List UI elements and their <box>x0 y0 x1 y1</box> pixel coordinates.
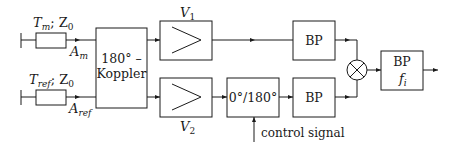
transmission-line-tref <box>36 90 66 105</box>
measurement-input: Tm; Z0 Am <box>21 15 96 61</box>
amplifier-v2: V2 <box>160 78 212 136</box>
svg-text:Tref; Z0: Tref; Z0 <box>29 72 74 89</box>
transmission-line-tm <box>36 33 66 48</box>
amplifier-v1: V1 <box>160 5 212 60</box>
output-bandpass: BP fi <box>381 51 423 90</box>
svg-text:Tm; Z0: Tm; Z0 <box>33 15 74 32</box>
coupler-180: 180° – Koppler <box>96 28 147 108</box>
coupler-label-line2: Koppler <box>97 66 147 81</box>
coupler-label-line1: 180° – <box>101 51 141 66</box>
am-port-label: A <box>69 44 79 59</box>
bp-bottom-label: BP <box>305 90 323 105</box>
mixer <box>347 60 367 80</box>
bandpass-top: BP <box>293 21 335 60</box>
phase-shifter-label: 0°/180° <box>229 90 278 105</box>
svg-text:V1: V1 <box>180 5 195 22</box>
aref-port-label: A <box>68 101 78 116</box>
bandpass-bottom: BP <box>293 78 335 117</box>
svg-text:Am: Am <box>69 44 88 61</box>
svg-text:Aref: Aref <box>68 101 93 118</box>
phase-shifter: 0°/180° <box>227 78 279 117</box>
svg-text:V2: V2 <box>180 119 195 136</box>
output-bp-label: BP <box>393 54 411 69</box>
control-signal-label: control signal <box>261 126 345 140</box>
bp-top-label: BP <box>305 33 323 48</box>
reference-input: Tref; Z0 Aref <box>21 72 96 118</box>
control-signal: control signal <box>254 117 345 142</box>
